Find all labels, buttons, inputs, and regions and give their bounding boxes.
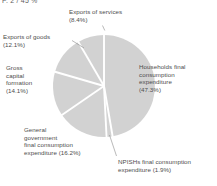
leader-line-npishs: [110, 135, 117, 156]
pie-label-npishs: NPISHs final consumption expenditure (1.…: [118, 158, 191, 173]
pie-label-exports-of-services: Exports of services (8.4%): [69, 8, 122, 23]
pie-label-general-government: General government final consumption exp…: [24, 126, 81, 156]
leader-line-exports-services: [103, 26, 105, 31]
pie-chart-figure: P. 2 / 45 %: [0, 0, 217, 186]
pie-label-households: Households final consumption expenditure…: [139, 63, 186, 93]
pie-label-gross-capital-formation: Gross capital formation (14.1%): [6, 64, 32, 94]
pie-label-exports-of-goods: Exports of goods (12.1%): [3, 33, 50, 48]
